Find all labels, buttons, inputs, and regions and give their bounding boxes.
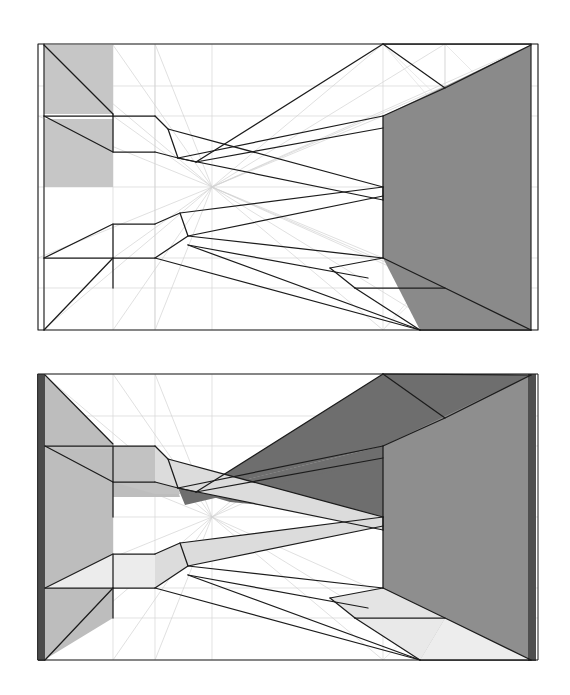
ceiling-ridge-left bbox=[196, 44, 383, 162]
ceiling-top-edge bbox=[383, 44, 445, 88]
top-fills bbox=[44, 45, 531, 330]
lower-strut-join bbox=[180, 213, 188, 236]
left-lower-soffit bbox=[44, 224, 155, 258]
left-wall-lower-tone bbox=[44, 449, 113, 517]
lower-rising-strut-a bbox=[188, 566, 383, 588]
figure-bottom-shaded-drawing bbox=[0, 347, 570, 695]
right-floor-step-edge bbox=[330, 268, 355, 288]
right-floor-step-top bbox=[330, 258, 383, 268]
left-wall-upper-tone bbox=[44, 375, 113, 446]
upper-rising-strut-a bbox=[178, 116, 383, 158]
right-upper-wall-fill bbox=[383, 45, 531, 187]
lower-pale-beam bbox=[155, 517, 383, 588]
upper-beam-bottom bbox=[155, 152, 383, 200]
lower-rising-strut-b bbox=[188, 575, 368, 608]
upper-beam-kink bbox=[168, 129, 178, 158]
left-lower-wedge-edge bbox=[44, 258, 113, 330]
drawing-page: Two one-point perspective architectural … bbox=[0, 0, 570, 695]
lower-rising-strut-b bbox=[188, 245, 368, 278]
left-dark-edge-band bbox=[38, 374, 45, 661]
figure-top-line-drawing bbox=[0, 0, 570, 348]
right-dark-edge-band bbox=[528, 374, 536, 661]
figure-top-svg bbox=[0, 0, 570, 348]
lower-floor-diagonal-b bbox=[155, 258, 420, 330]
lower-rising-strut-a bbox=[188, 236, 383, 258]
figure-bottom-svg bbox=[0, 347, 570, 695]
